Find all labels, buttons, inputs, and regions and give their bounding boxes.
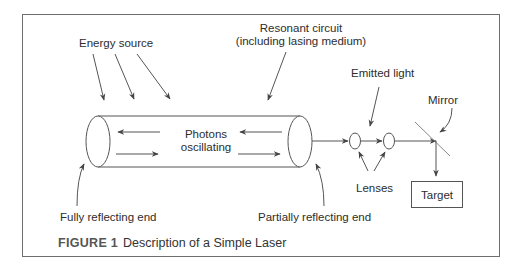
fully-reflecting-end-label: Fully reflecting end: [60, 211, 157, 224]
photons-line1: Photons: [166, 128, 246, 141]
emitted-light-label: Emitted light: [351, 67, 414, 80]
mirror-arrow: [440, 108, 452, 132]
energy-arrow-3: [137, 54, 170, 99]
figure-caption: FIGURE 1Description of a Simple Laser: [58, 236, 286, 250]
energy-arrow-2: [115, 54, 134, 99]
photons-line2: oscillating: [166, 141, 246, 154]
energy-source-label: Energy source: [79, 37, 153, 50]
partially-reflecting-end-ellipse: [288, 116, 312, 167]
fully-reflecting-arrow: [77, 164, 84, 206]
fully-reflecting-end-ellipse: [86, 116, 110, 167]
partially-reflecting-end-label: Partially reflecting end: [258, 211, 371, 224]
target-box: Target: [411, 181, 463, 208]
lenses-label: Lenses: [356, 182, 393, 195]
figure-title: Description of a Simple Laser: [123, 236, 286, 250]
partially-reflecting-arrow: [316, 164, 324, 206]
lens-2: [384, 133, 395, 149]
resonant-circuit-label: Resonant circuit (including lasing mediu…: [226, 22, 376, 48]
target-label: Target: [421, 189, 453, 201]
figure-number: FIGURE 1: [58, 236, 118, 250]
mirror-line: [415, 122, 450, 156]
resonant-circuit-line2: (including lasing medium): [226, 35, 376, 48]
emitted-light-arrow: [370, 87, 379, 126]
lens-1: [350, 133, 361, 149]
lens-arrow-1: [359, 152, 368, 171]
lens-arrow-2: [374, 152, 385, 171]
resonant-circuit-line1: Resonant circuit: [226, 22, 376, 35]
energy-arrow-1: [93, 54, 104, 100]
resonant-arrow: [268, 52, 286, 100]
mirror-label: Mirror: [428, 94, 458, 107]
photons-label: Photons oscillating: [166, 128, 246, 154]
